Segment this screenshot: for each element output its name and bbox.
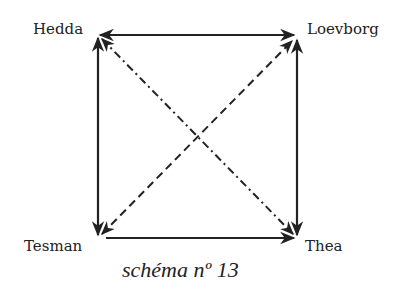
node-label-tesman: Tesman [24, 239, 82, 254]
edge-tesman-loevborg [102, 41, 292, 234]
node-label-loevborg: Loevborg [307, 22, 379, 37]
node-label-thea: Thea [305, 239, 343, 254]
diagram-canvas: Hedda Loevborg Tesman Thea schéma nº 13 [0, 0, 414, 293]
diagram-caption: schéma nº 13 [122, 259, 239, 281]
node-label-hedda: Hedda [33, 22, 83, 37]
